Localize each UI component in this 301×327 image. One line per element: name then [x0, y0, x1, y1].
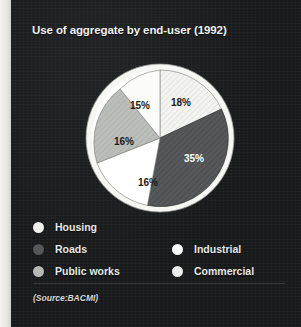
page-title: Use of aggregate by end-user (1992): [32, 24, 227, 36]
pie-label-public-works: 16%: [114, 136, 134, 147]
source-note: (Source:BACMI): [33, 293, 98, 303]
chart-panel: Use of aggregate by end-user (1992): [11, 0, 301, 327]
legend-swatch-industrial-icon: [172, 244, 183, 255]
legend-item-public-works[interactable]: Public works: [33, 260, 120, 282]
chart-legend: Housing Roads Public works Industrial: [33, 216, 285, 278]
pie-label-roads: 35%: [184, 153, 204, 164]
legend-swatch-housing-icon: [33, 222, 44, 233]
legend-item-commercial[interactable]: Commercial: [172, 260, 254, 282]
legend-swatch-roads-icon: [33, 244, 44, 255]
legend-item-industrial[interactable]: Industrial: [172, 238, 254, 260]
legend-label-public-works: Public works: [55, 265, 120, 277]
legend-swatch-public-works-icon: [33, 266, 44, 277]
legend-item-housing[interactable]: Housing: [33, 216, 120, 238]
pie-label-commercial: 16%: [138, 177, 158, 188]
legend-label-industrial: Industrial: [194, 243, 241, 255]
screenshot-root: Use of aggregate by end-user (1992): [0, 0, 301, 327]
pie-label-housing: 15%: [130, 100, 150, 111]
page-margin: [0, 0, 11, 327]
pie-label-industrial: 18%: [171, 97, 191, 108]
legend-label-commercial: Commercial: [194, 265, 254, 277]
legend-item-roads[interactable]: Roads: [33, 238, 120, 260]
footer-divider: [33, 283, 285, 284]
legend-swatch-commercial-icon: [172, 266, 183, 277]
legend-column-left: Housing Roads Public works: [33, 216, 120, 282]
legend-label-housing: Housing: [55, 221, 97, 233]
legend-label-roads: Roads: [55, 243, 87, 255]
pie-chart: 18% 35% 16% 16% 15%: [84, 62, 236, 214]
legend-column-right: Industrial Commercial: [172, 238, 254, 282]
pie-chart-svg: 18% 35% 16% 16% 15%: [84, 62, 236, 214]
